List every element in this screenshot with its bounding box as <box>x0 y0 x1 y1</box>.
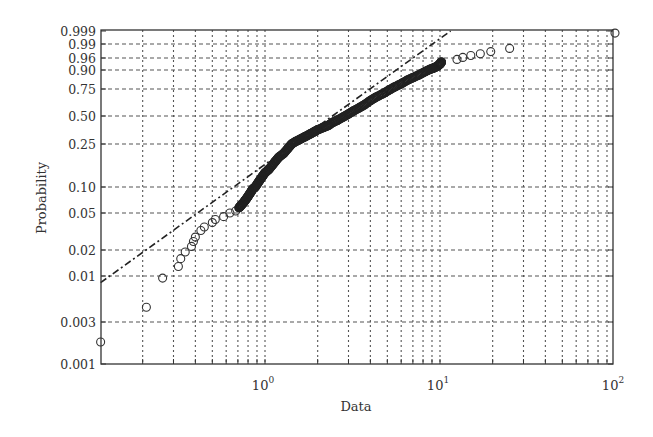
data-point <box>476 50 484 58</box>
plot-frame <box>101 30 613 364</box>
x-tick-label: 101 <box>427 375 449 393</box>
probability-plot: 0.9990.990.960.900.750.500.250.100.050.0… <box>0 0 653 437</box>
data-point <box>142 303 150 311</box>
data-point <box>159 274 167 282</box>
data-point <box>467 52 475 60</box>
data-point <box>506 44 514 52</box>
y-tick-label: 0.10 <box>68 180 96 195</box>
y-axis-label: Probability <box>34 161 49 234</box>
data-point <box>487 48 495 56</box>
plot-canvas: 0.9990.990.960.900.750.500.250.100.050.0… <box>0 0 653 437</box>
x-axis-label: Data <box>340 399 371 414</box>
y-tick-label: 0.003 <box>60 315 96 330</box>
x-tick-label: 100 <box>252 375 275 393</box>
grid-lines <box>101 30 613 364</box>
y-tick-label: 0.50 <box>68 109 96 124</box>
y-tick-label: 0.05 <box>68 206 96 221</box>
y-tick-label: 0.01 <box>68 269 96 284</box>
y-tick-label: 0.90 <box>68 63 96 78</box>
data-point <box>187 242 195 250</box>
x-tick-label: 102 <box>602 375 624 393</box>
y-tick-label: 0.25 <box>68 137 96 152</box>
data-points <box>97 29 619 346</box>
y-tick-label: 0.001 <box>60 357 96 372</box>
data-point <box>174 262 182 270</box>
y-tick-label: 0.02 <box>68 243 96 258</box>
y-tick-label: 0.75 <box>68 82 96 97</box>
y-tick-label: 0.99 <box>68 37 96 52</box>
